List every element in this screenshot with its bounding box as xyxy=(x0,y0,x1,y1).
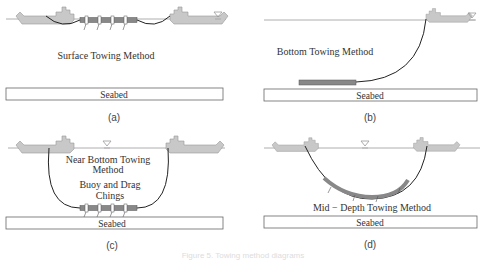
panel-label: (b) xyxy=(364,112,376,123)
seabed-label: Seabed xyxy=(100,90,128,100)
ship-icon xyxy=(16,7,74,24)
panel-c: Near Bottom Towing Method Buoy and Drag … xyxy=(6,136,225,251)
ship-icon xyxy=(426,9,472,23)
tunnel-structure xyxy=(324,178,408,197)
panel-label: (d) xyxy=(364,239,376,250)
waterline-icon xyxy=(361,141,369,148)
towing-methods-diagram: Surface Towing Method Seabed (a) Bottom … xyxy=(0,0,486,262)
tunnel-structure xyxy=(80,206,137,211)
method-title: Surface Towing Method xyxy=(58,50,155,61)
method-title: Mid − Depth Towing Method xyxy=(313,202,431,213)
panel-label: (a) xyxy=(108,112,120,123)
tunnel-structure xyxy=(80,18,137,23)
panel-b: Bottom Towing Method Seabed (b) xyxy=(264,9,477,123)
panel-label: (c) xyxy=(106,240,118,251)
waterline-icon xyxy=(103,141,111,148)
seabed-label: Seabed xyxy=(356,91,384,101)
ship-icon xyxy=(414,138,460,152)
ship-icon xyxy=(166,136,224,153)
buoy-note: Chings xyxy=(96,190,124,201)
buoy-note: Buoy and Drag xyxy=(79,179,140,190)
seabed-label: Seabed xyxy=(356,218,384,228)
ship-icon xyxy=(16,136,74,153)
panel-d: Mid − Depth Towing Method Seabed (d) xyxy=(264,138,480,250)
seabed-label: Seabed xyxy=(98,219,126,229)
figure-caption: Figure 5. Towing method diagrams xyxy=(182,251,305,260)
method-title: Bottom Towing Method xyxy=(277,46,373,57)
method-title: Method xyxy=(92,164,123,175)
tunnel-structure xyxy=(299,80,356,85)
ship-icon xyxy=(272,138,318,152)
panel-a: Surface Towing Method Seabed (a) xyxy=(6,7,228,123)
